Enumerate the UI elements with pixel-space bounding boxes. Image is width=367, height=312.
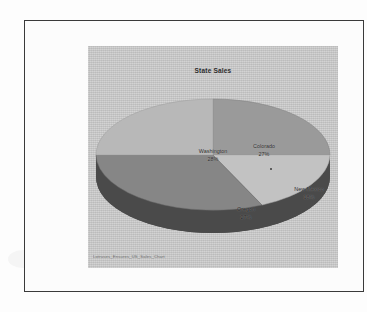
pie-label-oregon-percent: 27% xyxy=(219,213,273,221)
document-frame: State Sales xyxy=(24,20,364,292)
pie-label-oregon-name: Oregon xyxy=(237,206,255,212)
pie-label-new-mexico: New Mexico 18% xyxy=(278,185,338,201)
pie-label-washington: Washington 28% xyxy=(183,147,243,163)
chart-title: State Sales xyxy=(88,67,338,74)
pie-center-marker xyxy=(270,168,272,170)
pie-label-colorado-percent: 27% xyxy=(235,150,293,158)
chart-caption: Lotruses_Ensures_US_Sales_Chart xyxy=(93,254,165,259)
pie-label-colorado: Colorado 27% xyxy=(235,142,293,158)
pie-label-washington-percent: 28% xyxy=(183,155,243,163)
pie-label-new-mexico-percent: 18% xyxy=(278,193,338,201)
pie-label-oregon: Oregon 27% xyxy=(219,205,273,221)
scanned-page: State Sales xyxy=(0,0,367,312)
chart-panel: State Sales xyxy=(88,46,338,268)
pie-label-new-mexico-name: New Mexico xyxy=(294,186,323,192)
pie-label-colorado-name: Colorado xyxy=(253,143,275,149)
pie-label-washington-name: Washington xyxy=(199,148,227,154)
